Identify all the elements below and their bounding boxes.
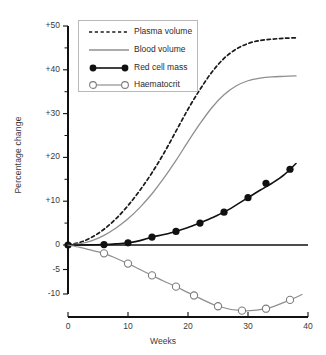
- chart-figure: Percentage change Weeks +50+40+30+20+100…: [0, 0, 326, 355]
- legend-label: Plasma volume: [134, 26, 192, 36]
- x-axis-tick-label: 0: [56, 322, 80, 331]
- legend-item-plasma-volume[interactable]: Plasma volume: [79, 23, 199, 41]
- legend-label: Blood volume: [134, 44, 186, 54]
- y-axis-tick-label: +30: [30, 109, 60, 118]
- y-axis-tick-label: -5: [30, 265, 60, 274]
- y-axis-tick-label: +50: [30, 21, 60, 30]
- y-axis-title: Percentage change: [13, 90, 23, 220]
- x-axis-tick-label: 10: [116, 322, 140, 331]
- y-axis-tick-label: 0: [30, 240, 60, 249]
- x-axis-title: Weeks: [0, 336, 326, 346]
- legend-label: Haematocrit: [134, 79, 180, 89]
- legend-label: Red cell mass: [134, 62, 187, 72]
- x-axis-tick-label: 40: [296, 322, 320, 331]
- x-axis-tick-label: 30: [236, 322, 260, 331]
- solid-gray-line-icon: [87, 41, 131, 59]
- dashed-line-icon: [87, 23, 131, 41]
- chart-legend: Plasma volume Blood volume Red cell mass…: [78, 20, 198, 92]
- legend-item-red-cell-mass[interactable]: Red cell mass: [79, 59, 199, 77]
- open-circle-line-icon: [87, 76, 131, 94]
- y-axis-tick-label: +10: [30, 196, 60, 205]
- y-axis-tick-label: +20: [30, 152, 60, 161]
- y-axis-tick-label: -10: [30, 289, 60, 298]
- legend-item-blood-volume[interactable]: Blood volume: [79, 41, 199, 59]
- y-axis-tick-label: +40: [30, 65, 60, 74]
- x-axis-tick-label: 20: [176, 322, 200, 331]
- filled-circle-line-icon: [87, 59, 131, 77]
- legend-item-haematocrit[interactable]: Haematocrit: [79, 76, 199, 94]
